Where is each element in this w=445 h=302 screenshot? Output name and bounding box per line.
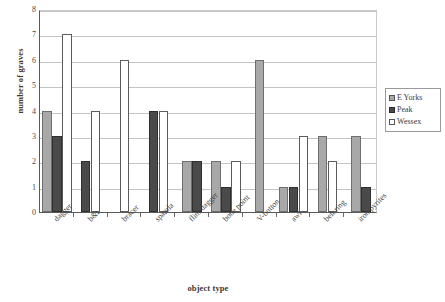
bar-group: [40, 11, 74, 212]
bar-b-t-peak: [81, 161, 91, 212]
bar-dagger-wessex: [62, 34, 72, 212]
bar-dagger-e-yorks: [42, 111, 52, 213]
y-tick-label-7: 7: [22, 31, 36, 39]
bar-chart: number of graves 012345678 daggerb&tbrac…: [0, 0, 445, 302]
bar-group: [108, 11, 142, 212]
legend-item-wessex: Wessex: [389, 116, 438, 127]
bar-spatula-peak: [149, 111, 159, 213]
x-axis-title: object type: [39, 283, 377, 293]
y-tick-label-5: 5: [22, 82, 36, 90]
bar-dagger-peak: [52, 136, 62, 212]
bar-awl-wessex: [299, 136, 309, 212]
bar-bone-point-e-yorks: [211, 161, 221, 212]
bar-group: [141, 11, 175, 212]
bars-layer: [40, 11, 376, 212]
legend-item-e-yorks: E Yorks: [389, 92, 438, 103]
bar-flint-dagger-e-yorks: [182, 161, 192, 212]
bar-group: [310, 11, 344, 212]
legend-item-label: Peak: [397, 105, 413, 114]
y-tick-label-3: 3: [22, 133, 36, 141]
bar-group: [74, 11, 108, 212]
plot-area: [39, 10, 377, 213]
bar-group: [243, 11, 277, 212]
legend-swatch-icon: [389, 95, 395, 101]
bar-group: [209, 11, 243, 212]
bar-v-button-e-yorks: [255, 60, 265, 212]
y-tick-label-6: 6: [22, 57, 36, 65]
y-axis-tick-labels: 012345678: [22, 10, 36, 213]
bar-group: [277, 11, 311, 212]
legend: E YorksPeakWessex: [385, 88, 441, 132]
bar-spatula-wessex: [159, 111, 169, 213]
bar-bracer-wessex: [120, 60, 130, 212]
y-tick-label-4: 4: [22, 108, 36, 116]
y-tick-label-2: 2: [22, 158, 36, 166]
legend-item-label: Wessex: [397, 117, 421, 126]
x-axis-category-labels: daggerb&tbracerspatulaflint daggerbone p…: [39, 217, 377, 275]
bar-iron-pyrites-e-yorks: [351, 136, 361, 212]
legend-swatch-icon: [389, 119, 395, 125]
bar-awl-e-yorks: [279, 187, 289, 212]
y-tick-label-8: 8: [22, 6, 36, 14]
bar-b-t-wessex: [91, 111, 101, 213]
y-tick-label-0: 0: [22, 209, 36, 217]
legend-item-label: E Yorks: [397, 93, 422, 102]
legend-item-peak: Peak: [389, 104, 438, 115]
bar-belt-ring-e-yorks: [318, 136, 328, 212]
y-tick-label-1: 1: [22, 184, 36, 192]
legend-swatch-icon: [389, 107, 395, 113]
bar-group: [344, 11, 378, 212]
bar-group: [175, 11, 209, 212]
